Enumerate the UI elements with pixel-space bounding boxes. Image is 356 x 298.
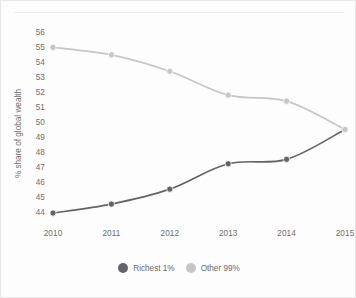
data-point-2011[interactable]: [108, 201, 114, 207]
chart-legend: Richest 1%Other 99%: [1, 263, 356, 273]
data-point-2010[interactable]: [50, 210, 56, 216]
chart-figure: % share of global wealth 444546474849505…: [0, 0, 356, 298]
legend-swatch-icon: [118, 263, 128, 273]
data-point-2014[interactable]: [284, 156, 290, 162]
data-point-2012[interactable]: [167, 68, 173, 74]
data-point-2014[interactable]: [284, 98, 290, 104]
data-point-2010[interactable]: [50, 44, 56, 50]
data-point-2015[interactable]: [342, 126, 348, 132]
data-point-2011[interactable]: [108, 52, 114, 58]
series-line: [53, 47, 345, 129]
series-other-99: [50, 44, 348, 132]
plot-area: [1, 1, 356, 298]
legend-label: Other 99%: [201, 264, 240, 273]
legend-label: Richest 1%: [133, 264, 174, 273]
series-line: [53, 129, 345, 213]
legend-swatch-icon: [186, 263, 196, 273]
legend-item-other-99[interactable]: Other 99%: [186, 263, 240, 273]
series-richest-1: [50, 126, 348, 216]
data-point-2013[interactable]: [225, 92, 231, 98]
legend-item-richest-1[interactable]: Richest 1%: [118, 263, 174, 273]
data-point-2013[interactable]: [225, 161, 231, 167]
data-point-2012[interactable]: [167, 186, 173, 192]
